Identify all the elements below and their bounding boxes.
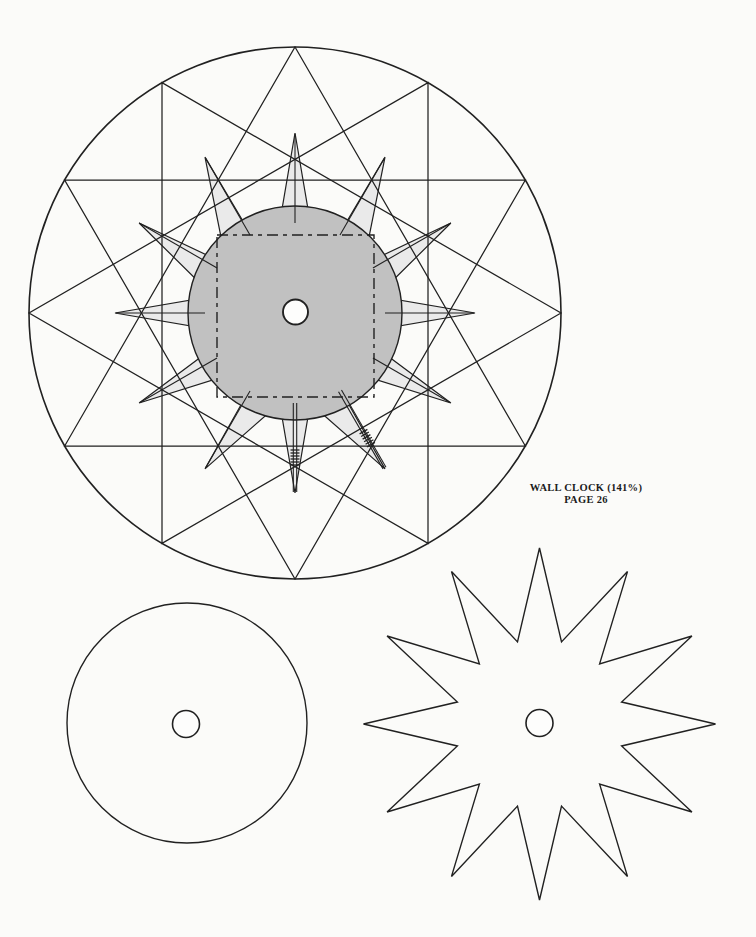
assembly-center-hole xyxy=(283,300,308,325)
clock-pattern-svg xyxy=(0,0,756,937)
pattern-label-title: WALL CLOCK (141%) xyxy=(466,482,706,494)
starburst-template-center-hole xyxy=(526,710,553,737)
pattern-book-page: WALL CLOCK (141%) PAGE 26 xyxy=(0,0,756,937)
disc-template-center-hole xyxy=(173,711,200,738)
pattern-label-page: PAGE 26 xyxy=(466,494,706,506)
pattern-label: WALL CLOCK (141%) PAGE 26 xyxy=(466,482,706,506)
